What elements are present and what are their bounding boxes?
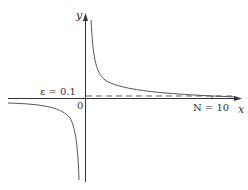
origin-label: 0 bbox=[77, 101, 83, 111]
x-axis-label: x bbox=[238, 104, 244, 115]
diagram-canvas bbox=[0, 0, 248, 190]
hyperbola-left-branch bbox=[8, 103, 79, 180]
y-axis-label: y bbox=[76, 10, 82, 21]
y-axis-arrow-icon bbox=[83, 13, 88, 21]
epsilon-label: ε = 0.1 bbox=[40, 87, 76, 97]
n-label: N = 10 bbox=[193, 103, 229, 113]
hyperbola-right-branch bbox=[91, 20, 236, 97]
